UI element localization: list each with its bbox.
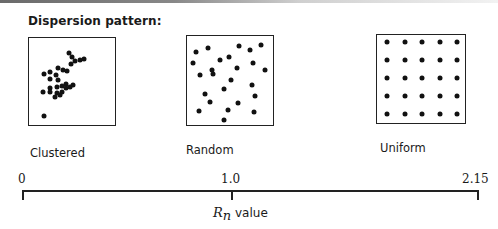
random-point: [251, 61, 256, 66]
random-point: [218, 58, 223, 63]
uniform-point: [402, 40, 407, 45]
axis-tick-label: 2.15: [462, 172, 489, 186]
clustered-point: [69, 62, 74, 67]
clustered-point: [48, 90, 53, 95]
random-point: [236, 101, 241, 106]
uniform-point: [455, 112, 460, 117]
uniform-point: [385, 76, 390, 81]
clustered-point: [56, 78, 61, 83]
top-border: [0, 0, 498, 3]
uniform-point: [455, 94, 460, 99]
random-point: [259, 43, 264, 48]
random-point: [229, 78, 234, 83]
uniform-point: [420, 112, 425, 117]
uniform-point: [402, 112, 407, 117]
random-point: [248, 48, 253, 53]
random-point: [198, 73, 203, 78]
clustered-point: [48, 77, 53, 82]
uniform-point: [437, 76, 442, 81]
clustered-point: [48, 70, 53, 75]
axis-tick-label: 0: [18, 172, 26, 186]
uniform-point: [385, 112, 390, 117]
random-point: [222, 118, 227, 123]
clustered-point: [42, 72, 47, 77]
random-point: [194, 50, 199, 55]
uniform-point: [437, 112, 442, 117]
diagram-title: Dispersion pattern:: [28, 14, 162, 28]
random-point: [253, 94, 258, 99]
random-point: [250, 83, 255, 88]
random-point: [227, 55, 232, 60]
axis-tick-label: 1.0: [221, 172, 240, 186]
axis-tick: [477, 190, 479, 200]
rn-axis-label: Rn value: [213, 205, 268, 223]
uniform-point: [385, 40, 390, 45]
random-point: [211, 72, 216, 77]
random-point: [197, 109, 202, 114]
clustered-point: [65, 69, 70, 74]
random-point: [203, 92, 208, 97]
uniform-point: [402, 58, 407, 63]
clustered-label: Clustered: [30, 146, 85, 160]
uniform-point: [455, 58, 460, 63]
random-point: [206, 46, 211, 51]
clustered-point: [82, 57, 87, 62]
clustered-point: [58, 93, 63, 98]
uniform-point: [402, 76, 407, 81]
rn-label-text: value: [231, 206, 268, 220]
random-point: [191, 61, 196, 66]
random-point: [263, 68, 268, 73]
uniform-point: [437, 40, 442, 45]
uniform-point: [420, 76, 425, 81]
uniform-point: [420, 58, 425, 63]
clustered-point: [71, 83, 76, 88]
random-point: [226, 108, 231, 113]
uniform-point: [385, 94, 390, 99]
random-point: [222, 87, 227, 92]
uniform-point: [437, 94, 442, 99]
random-label: Random: [186, 143, 234, 157]
random-point: [237, 44, 242, 49]
uniform-point: [402, 94, 407, 99]
uniform-point: [455, 76, 460, 81]
rn-axis-line: [22, 190, 479, 192]
random-point: [208, 100, 213, 105]
axis-tick: [22, 190, 24, 200]
uniform-point: [385, 58, 390, 63]
rn-symbol: R: [213, 205, 223, 220]
clustered-point: [41, 90, 46, 95]
clustered-pattern-box: [28, 37, 116, 126]
random-point: [252, 110, 257, 115]
rn-subscript: n: [223, 208, 231, 223]
axis-tick: [231, 190, 233, 200]
random-point: [235, 66, 240, 71]
uniform-point: [455, 40, 460, 45]
uniform-point: [420, 40, 425, 45]
uniform-point: [437, 58, 442, 63]
uniform-label: Uniform: [380, 141, 426, 155]
uniform-point: [420, 94, 425, 99]
clustered-point: [42, 114, 47, 119]
